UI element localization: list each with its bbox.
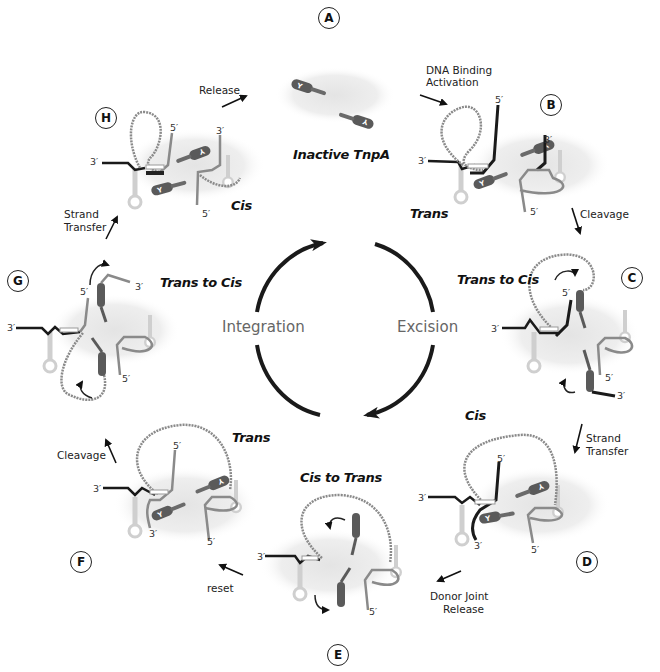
c-3prime-left: 3′ (491, 323, 499, 334)
transition-d-to-e-label-line1: Donor Joint (430, 590, 488, 602)
state-e-graphic (260, 495, 401, 610)
e-3prime-left: 3′ (257, 551, 265, 562)
cycle-arc-integration-bottom (257, 345, 320, 415)
b-3prime-right: 3′ (544, 134, 552, 145)
f-5prime-top: 5′ (173, 440, 181, 451)
g-3prime-right: 3′ (135, 281, 143, 292)
g-3prime-left: 3′ (7, 322, 15, 333)
transition-a-to-b-label-line2: Activation (426, 76, 479, 88)
arrow-e-to-f (220, 565, 243, 575)
excision-label: Excision (397, 318, 458, 336)
step-label-c: C (621, 267, 643, 289)
arrow-d-to-e (438, 571, 461, 581)
d-5prime-bottom: 5′ (531, 544, 539, 555)
state-name-d: Cis (465, 408, 486, 423)
g-5prime-top: 5′ (80, 286, 88, 297)
step-label-a: A (318, 7, 340, 29)
b-5prime-top: 5′ (495, 94, 503, 105)
d-3prime-left: 3′ (418, 492, 426, 503)
transition-e-to-f-label: reset (207, 582, 234, 594)
state-name-c: Trans to Cis (457, 272, 539, 287)
g-5prime-bottom: 5′ (122, 373, 130, 384)
integration-label: Integration (222, 318, 305, 336)
transition-d-to-e-label-line2: Release (443, 603, 484, 615)
c-5prime-right: 5′ (605, 372, 613, 383)
state-g-graphic (16, 264, 180, 399)
arrow-b-to-c (572, 208, 580, 233)
transition-c-to-d-label-line2: Transfer (586, 445, 628, 457)
f-3prime-left: 3′ (93, 483, 101, 494)
arrow-a-to-b (420, 95, 446, 104)
step-label-d: D (576, 551, 598, 573)
state-h-graphic (102, 112, 265, 208)
cycle-arc-excision-top (375, 244, 433, 312)
step-label-e: E (327, 644, 349, 666)
arrow-g-to-h (106, 217, 117, 239)
transition-b-to-c-label: Cleavage (580, 208, 629, 220)
state-a-graphic (275, 67, 395, 130)
b-5prime-bottom: 5′ (530, 206, 538, 217)
step-label-f: F (70, 551, 92, 573)
state-name-f: Trans (232, 430, 270, 445)
state-name-e: Cis to Trans (300, 470, 382, 485)
step-label-h: H (95, 107, 117, 129)
transition-g-to-h-label-line2: Transfer (64, 221, 106, 233)
state-name-g: Trans to Cis (160, 275, 242, 290)
e-5prime-bottom: 5′ (369, 606, 377, 617)
h-3prime-right: 3′ (216, 125, 224, 136)
transition-a-to-b-label-line1: DNA Binding (426, 64, 492, 76)
transition-f-to-g-label: Cleavage (57, 449, 106, 461)
c-3prime-bottom: 3′ (617, 390, 625, 401)
h-5prime-bottom: 5′ (202, 208, 210, 219)
state-b-graphic (428, 105, 610, 212)
state-name-a: Inactive TnpA (293, 147, 390, 162)
f-5prime-bottom: 5′ (207, 536, 215, 547)
state-name-b: Trans (410, 206, 448, 221)
b-3prime-left: 3′ (418, 155, 426, 166)
cycle-arrow-integration-top (257, 243, 323, 312)
arrow-h-to-a (222, 96, 246, 107)
h-5prime-top: 5′ (170, 122, 178, 133)
c-5prime-top: 5′ (562, 287, 570, 298)
transition-c-to-d-label-line1: Strand (586, 432, 621, 444)
transition-g-to-h-label-line1: Strand (64, 208, 99, 220)
state-name-h: Cis (231, 198, 252, 213)
step-label-g: G (7, 270, 29, 292)
d-5prime-top: 5′ (497, 453, 505, 464)
state-d-graphic (428, 435, 610, 545)
arrow-f-to-g (106, 440, 116, 463)
step-label-b: B (540, 94, 562, 116)
f-3prime-bottom: 3′ (149, 528, 157, 539)
cycle-arrow-excision-bottom (367, 345, 433, 415)
d-3prime-bottom: 3′ (474, 540, 482, 551)
arrow-c-to-d (575, 424, 582, 452)
transition-h-to-a-label: Release (199, 84, 240, 96)
h-3prime-left: 3′ (90, 156, 98, 167)
